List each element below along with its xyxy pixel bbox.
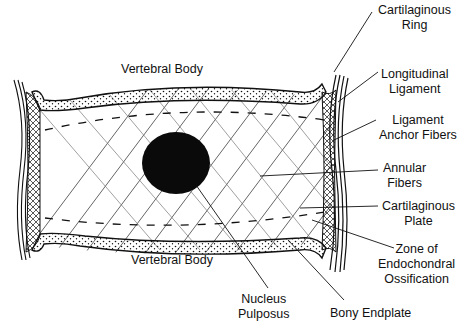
top-endplate (32, 84, 326, 111)
nucleus-pulposus (142, 132, 210, 194)
label-longitudinal-ligament: Longitudinal Ligament (381, 67, 448, 97)
label-line: Nucleus (238, 292, 289, 307)
label-line: Cartilaginous (382, 199, 455, 214)
label-line: Anchor Fibers (379, 128, 457, 143)
label-bony-endplate: Bony Endplate (330, 306, 411, 321)
label-line: Cartilaginous (378, 3, 451, 18)
label-vertebral-body-bottom: Vertebral Body (131, 253, 213, 268)
label-line: Longitudinal (381, 67, 448, 82)
label-nucleus-pulposus: Nucleus Pulposus (238, 292, 289, 322)
label-line: Plate (382, 214, 455, 229)
label-line: Fibers (383, 176, 426, 191)
label-annular-fibers: Annular Fibers (383, 161, 426, 191)
label-cartilaginous-plate: Cartilaginous Plate (382, 199, 455, 229)
label-line: Ligament (379, 113, 457, 128)
label-line: Zone of (378, 242, 455, 257)
label-ligament-anchor-fibers: Ligament Anchor Fibers (379, 113, 457, 143)
label-line: Pulposus (238, 307, 289, 322)
leader-lines (196, 12, 394, 300)
label-vertebral-body-top: Vertebral Body (121, 62, 203, 77)
label-line: Endochondral (378, 257, 455, 272)
lamella-bottom (45, 212, 325, 225)
label-line: Annular (383, 161, 426, 176)
label-zone-endochondral-ossification: Zone of Endochondral Ossification (378, 242, 455, 287)
label-line: Ligament (381, 82, 448, 97)
label-cartilaginous-ring: Cartilaginous Ring (378, 3, 451, 33)
label-line: Ossification (378, 272, 455, 287)
label-line: Ring (378, 18, 451, 33)
lamella-top (45, 112, 325, 130)
